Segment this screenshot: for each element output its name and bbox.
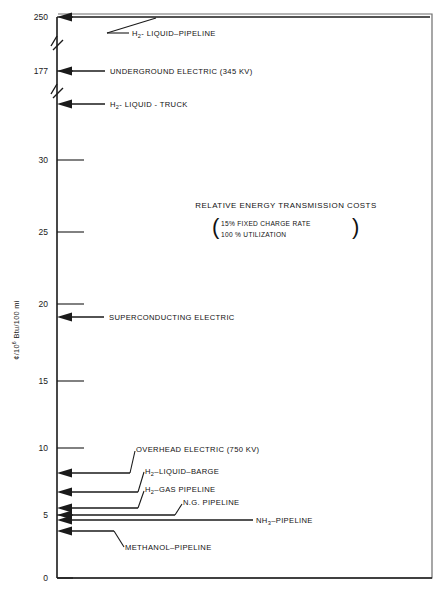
series-label-h2-liquid-pipeline: H2- LIQUID–PIPELINE xyxy=(132,29,216,39)
series-label-h2-liquid-barge: H2–LIQUID–BARGE xyxy=(145,467,219,477)
tick-label-250: 250 xyxy=(34,12,48,22)
series-label-nh3-pipeline: NH3–PIPELINE xyxy=(256,516,313,526)
tick-label-177: 177 xyxy=(34,66,48,76)
y-axis-title-prefix: ¢/10 xyxy=(12,344,21,360)
left-paren: ( xyxy=(212,214,220,239)
tick-label-0: 0 xyxy=(43,573,48,583)
series-label-h2-gas-pipeline: H2–GAS PIPELINE xyxy=(145,485,215,495)
chart-subtitle-line2: 100 % UTILIZATION xyxy=(221,231,286,238)
tick-label-25: 25 xyxy=(39,227,49,237)
series-label-h2-liquid-truck: H2- LIQUID - TRUCK xyxy=(110,100,188,110)
right-paren: ) xyxy=(352,214,359,239)
chart-container: 250 177 30 25 20 15 10 5 0 ¢/106 Btu/100… xyxy=(0,0,444,592)
series-label-overhead-electric: OVERHEAD ELECTRIC (750 KV) xyxy=(136,445,260,454)
series-label-methanol-pipeline: METHANOL–PIPELINE xyxy=(125,543,212,552)
chart-subtitle-line1: 15% FIXED CHARGE RATE xyxy=(221,220,311,227)
chart-title: RELATIVE ENERGY TRANSMISSION COSTS xyxy=(195,201,376,210)
tick-label-20: 20 xyxy=(39,299,49,309)
tick-label-15: 15 xyxy=(39,376,49,386)
svg-text:¢/106 Btu/100 mi: ¢/106 Btu/100 mi xyxy=(11,300,21,360)
y-axis-title-suffix: Btu/100 mi xyxy=(12,300,21,341)
tick-label-5: 5 xyxy=(43,510,48,520)
tick-label-10: 10 xyxy=(39,443,49,453)
series-label-underground-electric: UNDERGROUND ELECTRIC (345 KV) xyxy=(110,67,253,76)
y-axis-title: ¢/106 Btu/100 mi xyxy=(11,300,21,360)
series-label-superconducting-electric: SUPERCONDUCTING ELECTRIC xyxy=(109,313,235,322)
tick-label-30: 30 xyxy=(39,155,49,165)
series-label-ng-pipeline: N.G. PIPELINE xyxy=(183,498,239,507)
